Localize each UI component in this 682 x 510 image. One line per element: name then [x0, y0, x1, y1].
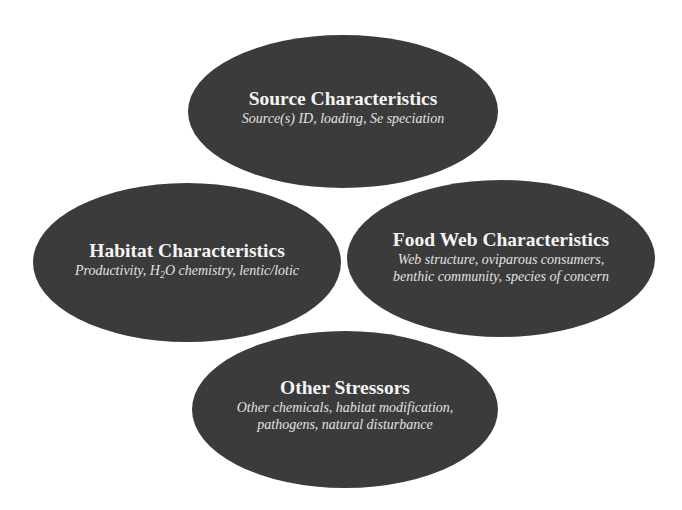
node-description: Productivity, H2O chemistry, lentic/loti…	[75, 262, 299, 279]
node-title: Other Stressors	[280, 377, 410, 399]
other-stressors-node: Other Stressors Other chemicals, habitat…	[192, 331, 498, 488]
node-description-line-1: Web structure, oviparous consumers,	[398, 251, 605, 268]
description-text: Productivity, H	[75, 263, 160, 278]
food-web-characteristics-node: Food Web Characteristics Web structure, …	[347, 180, 655, 337]
node-title: Food Web Characteristics	[393, 229, 609, 251]
node-description-line-2: pathogens, natural disturbance	[257, 416, 432, 433]
habitat-characteristics-node: Habitat Characteristics Productivity, H2…	[33, 183, 341, 342]
node-description-line-2: benthic community, species of concern	[393, 268, 609, 285]
node-title: Source Characteristics	[249, 88, 438, 110]
node-description: Source(s) ID, loading, Se speciation	[242, 110, 444, 127]
source-characteristics-node: Source Characteristics Source(s) ID, loa…	[188, 35, 498, 188]
description-text: O chemistry, lentic/lotic	[165, 263, 299, 278]
node-title: Habitat Characteristics	[89, 240, 285, 262]
node-description-line-1: Other chemicals, habitat modification,	[237, 399, 454, 416]
